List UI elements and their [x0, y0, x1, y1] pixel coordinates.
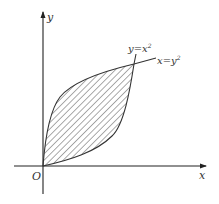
label-y-eq-x-squared: y=x2	[127, 42, 152, 54]
shaded-region	[43, 64, 134, 166]
label-x-eq-y-squared: x=y2	[157, 54, 181, 66]
origin-label: O	[32, 170, 41, 183]
region-diagram: y x O y=x2 x=y2	[0, 0, 219, 204]
x-axis-label: x	[199, 169, 206, 182]
y-axis-label: y	[46, 11, 54, 24]
